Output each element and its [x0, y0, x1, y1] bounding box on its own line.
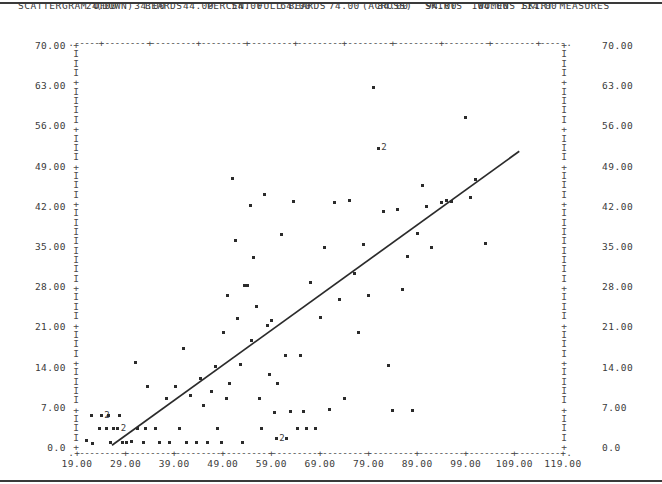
data-point	[377, 147, 380, 150]
axis-tick-plus: +	[268, 447, 274, 458]
bottom-tick-label: 119.00	[533, 458, 593, 469]
data-point	[154, 427, 157, 430]
scattergram-page: SCATTERGRAM OF (DOWN) BEARDS PERCENT FUL…	[0, 0, 662, 484]
data-point	[273, 411, 276, 414]
axis-tick-plus: +	[317, 447, 323, 458]
data-point	[107, 414, 110, 417]
axis-tick-plus: +	[98, 37, 104, 48]
right-axis-rule: +III+IIII+III+III+IIIIIIII+III+III+IIII+…	[559, 0, 569, 484]
data-point	[353, 272, 356, 275]
data-point	[216, 427, 219, 430]
left-tick-label: 7.00	[10, 402, 66, 413]
data-point	[333, 201, 336, 204]
left-tick-label: 70.00	[10, 40, 66, 51]
left-tick-label: 14.00	[10, 362, 66, 373]
right-tick-label: 63.00	[602, 80, 658, 91]
data-point	[252, 256, 255, 259]
right-tick-label: 7.00	[602, 402, 658, 413]
axis-tick-plus: +	[366, 447, 372, 458]
right-tick-label: 42.00	[602, 201, 658, 212]
data-point	[189, 394, 192, 397]
data-point	[225, 397, 228, 400]
left-tick-label: 28.00	[10, 281, 66, 292]
data-point	[464, 116, 467, 119]
axis-tick-plus: +	[559, 442, 569, 452]
data-point	[226, 294, 229, 297]
data-point	[411, 409, 414, 412]
data-point	[168, 441, 171, 444]
axis-tick-plus: +	[414, 447, 420, 458]
right-tick-label: 14.00	[602, 362, 658, 373]
overlap-count-label: 2	[121, 424, 126, 433]
axis-tick-plus: +	[171, 447, 177, 458]
data-point	[130, 440, 133, 443]
overlap-count-label: 2	[279, 434, 284, 443]
left-tick-label: 42.00	[10, 201, 66, 212]
data-point	[195, 441, 198, 444]
right-tick-label: 56.00	[602, 120, 658, 131]
data-point	[109, 441, 112, 444]
data-point	[440, 201, 443, 204]
data-point	[236, 317, 239, 320]
data-point	[228, 382, 231, 385]
axis-tick-plus: +	[147, 37, 153, 48]
left-tick-label: 35.00	[10, 241, 66, 252]
data-point	[234, 239, 237, 242]
data-point	[425, 205, 428, 208]
data-point	[178, 427, 181, 430]
axis-tick-plus: +	[123, 447, 129, 458]
data-point	[314, 427, 317, 430]
data-point	[305, 427, 308, 430]
data-point	[136, 427, 139, 430]
data-point	[214, 365, 217, 368]
data-point	[270, 319, 273, 322]
data-point	[338, 298, 341, 301]
axis-tick-plus: +	[341, 37, 347, 48]
axis-tick-plus: +	[439, 37, 445, 48]
data-point	[100, 414, 103, 417]
left-tick-label: 56.00	[10, 120, 66, 131]
data-point	[357, 331, 360, 334]
right-tick-label: 70.00	[602, 40, 658, 51]
data-point	[241, 441, 244, 444]
data-point	[430, 246, 433, 249]
data-point	[91, 442, 94, 445]
axis-tick-plus: +	[463, 447, 469, 458]
data-point	[258, 397, 261, 400]
data-point	[280, 233, 283, 236]
right-tick-label: 0.0	[602, 442, 658, 453]
data-point	[276, 382, 279, 385]
data-point	[185, 441, 188, 444]
left-tick-label: 21.00	[10, 321, 66, 332]
data-point	[445, 199, 448, 202]
data-point	[285, 437, 288, 440]
data-point	[299, 354, 302, 357]
left-tick-label: 0.0	[10, 442, 66, 453]
data-point	[118, 414, 121, 417]
axis-tick-plus: +	[71, 442, 81, 452]
data-point	[391, 409, 394, 412]
data-point	[406, 255, 409, 258]
data-point	[250, 339, 253, 342]
data-point	[323, 246, 326, 249]
data-point	[206, 441, 209, 444]
data-point	[309, 281, 312, 284]
data-point	[142, 441, 145, 444]
data-point	[387, 364, 390, 367]
right-tick-label: 49.00	[602, 161, 658, 172]
left-tick-label: 49.00	[10, 161, 66, 172]
left-axis-rule: +III+IIII+III+III+IIIIIIII+III+III+IIII+…	[71, 0, 81, 484]
data-point	[112, 427, 115, 430]
axis-tick-plus: +	[293, 37, 299, 48]
data-point	[174, 385, 177, 388]
overlap-count-label: 2	[381, 143, 386, 152]
data-point	[146, 385, 149, 388]
left-tick-label: 63.00	[10, 80, 66, 91]
data-point	[484, 242, 487, 245]
data-point	[158, 441, 161, 444]
data-point	[105, 427, 108, 430]
data-point	[263, 193, 266, 196]
data-point	[268, 373, 271, 376]
axis-tick-plus: +	[536, 37, 542, 48]
data-point	[210, 390, 213, 393]
